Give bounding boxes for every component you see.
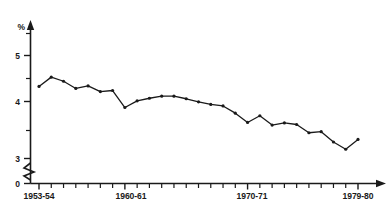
data-point-1971-72 — [258, 114, 261, 117]
y-tick-label-0: 0 — [15, 179, 20, 189]
data-point-1973-74 — [283, 121, 286, 124]
data-point-1966-67 — [197, 100, 200, 103]
x-tick-label-1979-80: 1979-80 — [343, 191, 374, 201]
data-point-1978-79 — [344, 148, 347, 151]
x-axis-ticks — [39, 184, 358, 190]
series-line-percentage — [39, 77, 358, 149]
data-point-1979-80 — [356, 138, 359, 141]
data-point-1964-65 — [172, 95, 175, 98]
data-point-1976-77 — [320, 130, 323, 133]
data-point-1963-64 — [160, 95, 163, 98]
data-point-1955-56 — [62, 80, 65, 83]
y-axis-arrowhead — [27, 20, 34, 30]
data-point-1953-54 — [37, 85, 40, 88]
data-point-1960-61 — [123, 106, 126, 109]
data-point-1967-68 — [209, 103, 212, 106]
data-point-1961-62 — [136, 99, 139, 102]
x-tick-label-1970-71: 1970-71 — [237, 191, 268, 201]
y-tick-label-3: 3 — [15, 154, 20, 164]
y-axis-break — [24, 163, 34, 180]
data-point-1972-73 — [271, 123, 274, 126]
x-tick-label-1960-61: 1960-61 — [116, 191, 147, 201]
axis-break-zigzag — [24, 163, 34, 180]
x-axis-arrowhead — [376, 180, 386, 187]
data-point-1962-63 — [148, 97, 151, 100]
data-point-1969-70 — [234, 112, 237, 115]
data-point-1958-59 — [99, 90, 102, 93]
data-point-1968-69 — [221, 104, 224, 107]
data-point-1977-78 — [332, 140, 335, 143]
x-axis — [31, 180, 387, 187]
y-axis-unit-label: % — [17, 22, 25, 32]
data-point-1974-75 — [295, 123, 298, 126]
data-point-1970-71 — [246, 121, 249, 124]
x-axis-tick-labels: 1953-54 1960-61 1970-71 1979-80 — [24, 191, 374, 201]
x-tick-label-1953-54: 1953-54 — [24, 191, 55, 201]
y-axis-ticks — [24, 34, 31, 184]
chart-figure: 5 4 3 0 % 1953-54 1960-61 1970-71 1979-8… — [0, 0, 392, 216]
y-axis-tick-labels: 5 4 3 0 % — [15, 22, 25, 189]
data-point-1956-57 — [74, 87, 77, 90]
line-chart: 5 4 3 0 % 1953-54 1960-61 1970-71 1979-8… — [0, 0, 392, 216]
data-point-1975-76 — [307, 131, 310, 134]
data-point-1965-66 — [185, 97, 188, 100]
data-point-1957-58 — [86, 84, 89, 87]
data-point-1959-60 — [111, 89, 114, 92]
data-point-1954-55 — [50, 76, 53, 79]
y-tick-label-5: 5 — [15, 51, 20, 61]
y-tick-label-4: 4 — [15, 97, 20, 107]
